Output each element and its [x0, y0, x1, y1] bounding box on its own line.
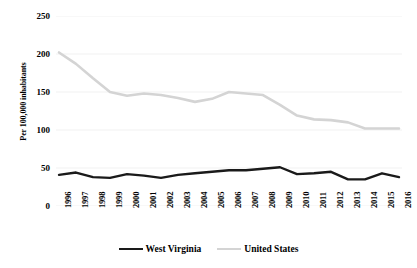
x-tick-label-2012: 2012 — [335, 174, 345, 208]
x-tick-label-2016: 2016 — [403, 174, 413, 208]
plot-area — [56, 16, 402, 206]
legend-entry-united-states[interactable]: United States — [217, 244, 298, 254]
x-tick-label-2007: 2007 — [250, 174, 260, 208]
x-tick-label-2014: 2014 — [369, 174, 379, 208]
chart-title — [0, 0, 417, 2]
y-tick-label-0: 0 — [22, 202, 50, 211]
x-tick-label-2011: 2011 — [318, 174, 328, 208]
y-tick-label-200: 200 — [22, 50, 50, 59]
x-tick-label-2001: 2001 — [148, 174, 158, 208]
x-tick-label-2013: 2013 — [352, 174, 362, 208]
x-tick-label-2004: 2004 — [199, 174, 209, 208]
x-tick-label-2015: 2015 — [386, 174, 396, 208]
x-tick-label-2008: 2008 — [267, 174, 277, 208]
legend-swatch-west-virginia — [119, 248, 143, 250]
legend-label-united-states: United States — [244, 244, 298, 254]
y-tick-label-150: 150 — [22, 88, 50, 97]
x-tick-label-2003: 2003 — [182, 174, 192, 208]
series-lines — [59, 52, 399, 179]
x-tick-label-2010: 2010 — [301, 174, 311, 208]
x-tick-label-2005: 2005 — [216, 174, 226, 208]
x-tick-label-2009: 2009 — [284, 174, 294, 208]
x-tick-label-2002: 2002 — [165, 174, 175, 208]
chart-legend: West VirginiaUnited States — [0, 244, 417, 254]
legend-swatch-united-states — [217, 248, 241, 250]
x-tick-label-1998: 1998 — [97, 174, 107, 208]
y-tick-label-50: 50 — [22, 164, 50, 173]
x-tick-label-2006: 2006 — [233, 174, 243, 208]
legend-label-west-virginia: West Virginia — [146, 244, 202, 254]
x-tick-label-1999: 1999 — [114, 174, 124, 208]
legend-entry-west-virginia[interactable]: West Virginia — [119, 244, 202, 254]
series-line-west-virginia — [59, 167, 399, 179]
line-chart: Per 100,000 inhabitants 250200150100500 … — [0, 0, 417, 268]
y-tick-label-250: 250 — [22, 12, 50, 21]
y-tick-label-100: 100 — [22, 126, 50, 135]
x-tick-label-1996: 1996 — [63, 174, 73, 208]
series-line-united-states — [59, 52, 399, 128]
x-tick-label-2000: 2000 — [131, 174, 141, 208]
plot-svg — [56, 16, 402, 206]
x-tick-label-1997: 1997 — [80, 174, 90, 208]
